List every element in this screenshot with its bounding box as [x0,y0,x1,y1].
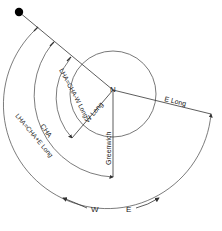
lha-east-arc [3,29,211,209]
east-longitude-label: E Long [164,95,188,108]
tick-mark [34,27,38,31]
cha-label: CHA [39,123,53,139]
star-icon [15,8,23,16]
hour-angle-diagram: N E Long W Long Greenwich CHA LHA=CHA-W … [0,0,222,231]
west-arrow-icon [63,198,87,208]
greenwich-label: Greenwich [105,131,112,165]
north-label: N [110,85,116,94]
tick-mark [50,42,54,46]
east-label: E [126,205,131,214]
east-arrow-icon [136,198,159,208]
east-longitude-line [113,90,211,114]
west-label: W [91,205,99,214]
